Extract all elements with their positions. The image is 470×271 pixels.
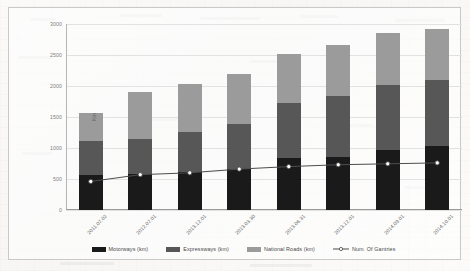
y-axis-tick-label: 1000: [50, 145, 62, 151]
x-axis-tick-labels: 2011.07.022012.07.012013.12.012013.03.30…: [66, 211, 462, 243]
legend-circle-icon: [339, 247, 342, 250]
x-axis-tick-label: 2013.03.30: [234, 213, 257, 236]
legend-swatch-icon: [166, 247, 180, 252]
x-axis-tick-label: 2013.06.31: [283, 213, 306, 236]
legend-swatch-icon: [92, 247, 106, 252]
bar-segment[interactable]: [128, 92, 152, 139]
bar-segment[interactable]: [326, 96, 350, 157]
bar-segment[interactable]: [178, 172, 202, 210]
bar-segment[interactable]: [79, 141, 103, 175]
stacked-bar[interactable]: [277, 54, 301, 210]
x-axis-tick: 2011.07.02: [66, 211, 116, 243]
x-axis-tick: 2013.12.01: [165, 211, 215, 243]
legend-item[interactable]: Num. Of Gantries: [333, 246, 396, 252]
bar-slot: [165, 24, 215, 210]
legend-swatch-icon: [247, 247, 261, 252]
bleed-mark: [250, 264, 312, 267]
x-axis-tick: 2013.03.30: [215, 211, 265, 243]
chart-frame: 050010001500200025003000 Km 2011.07.0220…: [8, 7, 461, 260]
plot-area: 050010001500200025003000 Km: [66, 24, 462, 210]
legend-item[interactable]: Expressways (km): [166, 246, 229, 252]
bar-segment[interactable]: [326, 45, 350, 96]
bar-segment[interactable]: [178, 132, 202, 172]
stacked-bar[interactable]: [326, 45, 350, 210]
legend-item[interactable]: National Roads (km): [247, 246, 315, 252]
bar-slot: [116, 24, 166, 210]
bar-segment[interactable]: [128, 174, 152, 210]
bar-segment[interactable]: [79, 175, 103, 210]
bar-slot: [264, 24, 314, 210]
chart-legend: Motorways (km)Expressways (km)National R…: [17, 246, 470, 252]
y-axis-title: Km: [91, 113, 97, 122]
y-axis-tick-label: 1500: [50, 114, 62, 120]
bar-segment[interactable]: [326, 157, 350, 210]
bar-segment[interactable]: [376, 85, 400, 150]
bar-slot: [215, 24, 265, 210]
stacked-bar[interactable]: [128, 92, 152, 210]
y-axis-tick-label: 0: [59, 207, 62, 213]
stacked-bar[interactable]: [79, 113, 103, 210]
x-axis-tick-label: 2014.09.01: [382, 213, 405, 236]
scanned-page-background: 050010001500200025003000 Km 2011.07.0220…: [0, 0, 470, 271]
bar-slot: [314, 24, 364, 210]
x-axis-tick-label: 2012.07.01: [135, 213, 158, 236]
legend-item[interactable]: Motorways (km): [92, 246, 149, 252]
bar-segment[interactable]: [227, 124, 251, 169]
y-axis-tick-label: 2000: [50, 83, 62, 89]
bar-segment[interactable]: [376, 33, 400, 85]
bar-segment[interactable]: [425, 29, 449, 80]
x-axis-tick-label: 2011.07.02: [85, 213, 107, 235]
bar-segment[interactable]: [227, 74, 251, 124]
stacked-bar[interactable]: [227, 74, 251, 210]
bar-segment[interactable]: [425, 80, 449, 146]
x-axis-tick-label: 2014.10.01: [432, 213, 455, 236]
y-axis-tick-label: 500: [53, 176, 62, 182]
stacked-bar[interactable]: [178, 84, 202, 210]
legend-label: National Roads (km): [264, 246, 315, 252]
stacked-bar[interactable]: [425, 29, 449, 210]
plot-inner: 050010001500200025003000: [66, 24, 462, 210]
x-axis-tick: 2014.10.01: [413, 211, 463, 243]
legend-line-marker-icon: [333, 246, 349, 252]
bar-segment[interactable]: [227, 169, 251, 210]
stacked-bar[interactable]: [376, 33, 400, 210]
legend-label: Motorways (km): [109, 246, 149, 252]
bar-segment[interactable]: [277, 54, 301, 103]
bar-segment[interactable]: [277, 103, 301, 158]
legend-label: Expressways (km): [183, 246, 229, 252]
bar-segment[interactable]: [277, 158, 301, 210]
bar-segment[interactable]: [178, 84, 202, 132]
bar-segment[interactable]: [128, 139, 152, 174]
x-axis-tick: 2013.06.31: [264, 211, 314, 243]
bar-slot: [363, 24, 413, 210]
y-axis-tick-label: 3000: [50, 21, 62, 27]
legend-label: Num. Of Gantries: [352, 246, 396, 252]
bar-slot: [413, 24, 463, 210]
x-axis-tick-label: 2013.12.01: [333, 213, 356, 236]
x-axis-tick: 2013.12.01: [314, 211, 364, 243]
bar-segment[interactable]: [425, 146, 449, 210]
x-axis-tick: 2012.07.01: [116, 211, 166, 243]
x-axis-tick: 2014.09.01: [363, 211, 413, 243]
y-axis-tick-label: 2500: [50, 52, 62, 58]
bleed-mark: [60, 262, 114, 265]
x-axis-tick-label: 2013.12.01: [184, 213, 207, 236]
bar-segment[interactable]: [376, 150, 400, 210]
